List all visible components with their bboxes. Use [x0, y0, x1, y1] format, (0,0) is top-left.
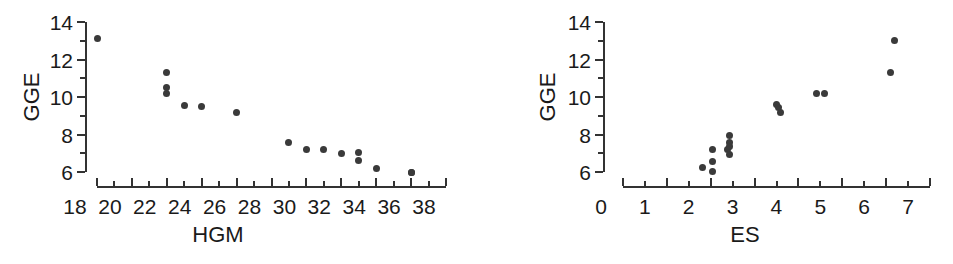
- x-axis-major-tick: [340, 178, 342, 186]
- x-axis-major-tick: [236, 178, 238, 186]
- x-axis-major-tick: [201, 178, 203, 186]
- x-axis-major-tick: [622, 178, 624, 186]
- y-axis-minor-tick: [80, 40, 85, 42]
- x-axis-title-left: HGM: [192, 224, 243, 246]
- x-axis-minor-tick: [863, 181, 865, 186]
- x-axis-minor-tick: [428, 181, 430, 186]
- y-axis-major-tick: [595, 59, 603, 61]
- data-point: [373, 165, 380, 172]
- data-point: [821, 90, 828, 97]
- x-axis-minor-tick: [819, 181, 821, 186]
- y-axis-tick-label: 6: [553, 162, 591, 183]
- x-axis-major-tick: [271, 178, 273, 186]
- y-axis-minor-tick: [80, 152, 85, 154]
- data-point: [726, 143, 733, 150]
- data-point: [408, 169, 415, 176]
- data-point: [891, 37, 898, 44]
- data-point: [813, 90, 820, 97]
- x-axis-major-tick: [710, 178, 712, 186]
- x-axis-minor-tick: [776, 181, 778, 186]
- y-axis-title-right: GGE: [537, 73, 559, 122]
- x-axis-minor-tick: [183, 181, 185, 186]
- data-point: [285, 139, 292, 146]
- x-axis-tick-label: 7: [886, 196, 930, 217]
- data-point: [303, 146, 310, 153]
- data-point: [198, 103, 205, 110]
- x-axis-minor-tick: [148, 181, 150, 186]
- data-point: [320, 146, 327, 153]
- data-point: [163, 69, 170, 76]
- x-axis-major-tick: [305, 178, 307, 186]
- data-point: [163, 90, 170, 97]
- y-axis-major-tick: [595, 171, 603, 173]
- y-axis-major-tick: [595, 21, 603, 23]
- x-axis-minor-tick: [218, 181, 220, 186]
- scatter-plot-figure: 681012141820222426283032343638 GGE HGM 6…: [0, 0, 953, 264]
- data-point: [233, 109, 240, 116]
- data-point: [709, 158, 716, 165]
- data-point: [726, 132, 733, 139]
- x-axis-major-tick: [929, 178, 931, 186]
- data-point: [94, 35, 101, 42]
- x-axis-minor-tick: [393, 181, 395, 186]
- y-axis-tick-label: 12: [35, 49, 73, 70]
- y-axis-minor-tick: [598, 152, 603, 154]
- x-axis-minor-tick: [907, 181, 909, 186]
- chart-panel-es: 6810121401234567 GGE ES: [476, 0, 953, 264]
- x-axis-tick-label: 0: [579, 196, 623, 217]
- y-axis-tick-label: 14: [553, 12, 591, 33]
- y-axis-line: [603, 22, 605, 172]
- x-axis-major-tick: [797, 178, 799, 186]
- y-axis-minor-tick: [598, 77, 603, 79]
- data-point: [777, 109, 784, 116]
- y-axis-minor-tick: [80, 77, 85, 79]
- x-axis-major-tick: [885, 178, 887, 186]
- data-point: [709, 146, 716, 153]
- y-axis-major-tick: [77, 96, 85, 98]
- data-point: [726, 151, 733, 158]
- x-axis-major-tick: [445, 178, 447, 186]
- x-axis-minor-tick: [688, 181, 690, 186]
- y-axis-title-left: GGE: [21, 73, 43, 122]
- y-axis-major-tick: [77, 134, 85, 136]
- x-axis-major-tick: [754, 178, 756, 186]
- y-axis-minor-tick: [598, 40, 603, 42]
- x-axis-minor-tick: [253, 181, 255, 186]
- y-axis-major-tick: [595, 96, 603, 98]
- y-axis-major-tick: [77, 171, 85, 173]
- x-axis-minor-tick: [113, 181, 115, 186]
- chart-panel-hgm: 681012141820222426283032343638 GGE HGM: [0, 0, 476, 264]
- y-axis-tick-label: 6: [35, 162, 73, 183]
- x-axis-major-tick: [410, 178, 412, 186]
- x-axis-tick-label: 6: [842, 196, 886, 217]
- x-axis-major-tick: [375, 178, 377, 186]
- data-point: [338, 150, 345, 157]
- y-axis-major-tick: [77, 59, 85, 61]
- x-axis-major-tick: [96, 178, 98, 186]
- y-axis-major-tick: [77, 21, 85, 23]
- y-axis-tick-label: 14: [35, 12, 73, 33]
- x-axis-major-tick: [166, 178, 168, 186]
- x-axis-title-right: ES: [730, 224, 759, 246]
- y-axis-major-tick: [595, 134, 603, 136]
- x-axis-line: [97, 186, 446, 188]
- y-axis-tick-label: 8: [35, 124, 73, 145]
- y-axis-tick-label: 8: [553, 124, 591, 145]
- x-axis-minor-tick: [288, 181, 290, 186]
- x-axis-major-tick: [841, 178, 843, 186]
- x-axis-line: [623, 186, 930, 188]
- y-axis-tick-label: 12: [553, 49, 591, 70]
- x-axis-tick-label: 3: [711, 196, 755, 217]
- x-axis-tick-label: 2: [667, 196, 711, 217]
- x-axis-minor-tick: [644, 181, 646, 186]
- data-point: [181, 102, 188, 109]
- y-axis-minor-tick: [598, 115, 603, 117]
- x-axis-minor-tick: [323, 181, 325, 186]
- x-axis-minor-tick: [358, 181, 360, 186]
- x-axis-minor-tick: [732, 181, 734, 186]
- x-axis-tick-label: 5: [798, 196, 842, 217]
- y-axis-line: [85, 22, 87, 172]
- y-axis-minor-tick: [80, 115, 85, 117]
- x-axis-tick-label: 1: [623, 196, 667, 217]
- data-point: [709, 168, 716, 175]
